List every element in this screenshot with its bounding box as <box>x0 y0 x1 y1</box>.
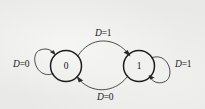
transition-label-bottom-var: D <box>97 92 104 102</box>
state-label-0: 0 <box>64 61 69 71</box>
transition-label-top-var: D <box>95 28 102 38</box>
transition-label-left-value: 0 <box>25 59 30 69</box>
arc-top-path <box>78 41 130 57</box>
transition-label-top-value: 1 <box>107 28 112 38</box>
transition-label-left-var: D <box>13 59 20 69</box>
state-diagram-canvas: 0 1 D=0 D=1 D=0 D=1 <box>0 0 205 109</box>
transition-label-self-loop-left: D=0 <box>13 60 29 70</box>
transition-label-self-loop-right: D=1 <box>175 60 191 70</box>
transition-label-right-var: D <box>175 59 182 69</box>
transition-label-arc-bottom: D=0 <box>97 93 113 103</box>
state-label-1: 1 <box>137 61 142 71</box>
transition-label-right-value: 1 <box>187 59 192 69</box>
transition-label-arc-top: D=1 <box>95 29 111 39</box>
self-loop-right-path <box>149 57 170 83</box>
arc-bottom-path <box>78 77 128 90</box>
transition-label-bottom-value: 0 <box>109 92 114 102</box>
